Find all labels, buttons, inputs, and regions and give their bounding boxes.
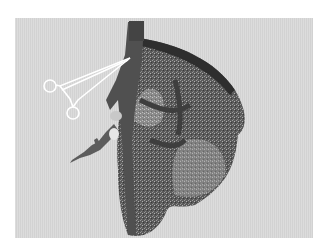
vessel-top xyxy=(129,21,144,41)
light-structure xyxy=(109,128,119,140)
anatomy-render xyxy=(0,0,323,246)
light-structure xyxy=(110,111,122,121)
